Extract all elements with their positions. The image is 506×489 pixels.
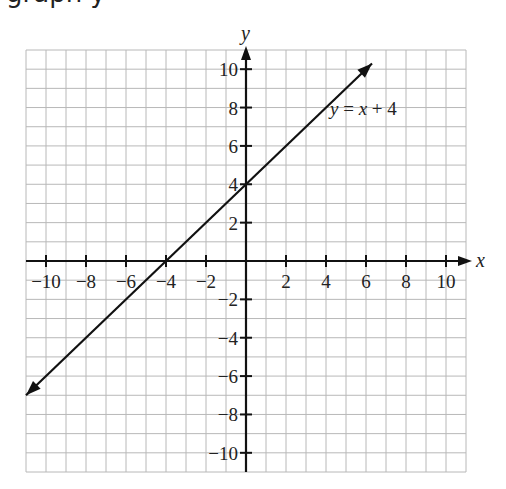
x-tick-label: 6 — [361, 271, 371, 292]
x-tick-label: 4 — [321, 271, 331, 292]
y-tick-label: 10 — [219, 59, 238, 80]
x-tick-label: −2 — [196, 271, 216, 292]
x-tick-label: 8 — [401, 271, 411, 292]
x-tick-label: 10 — [437, 271, 456, 292]
y-tick-label: −2 — [218, 289, 238, 310]
x-tick-label: −6 — [116, 271, 136, 292]
line-equation-label: y = x + 4 — [328, 98, 397, 119]
y-tick-label: 2 — [229, 213, 239, 234]
x-tick-label: −4 — [156, 271, 177, 292]
y-tick-label: −4 — [218, 328, 239, 349]
x-tick-label: −10 — [31, 271, 61, 292]
coordinate-plane: −10−8−6−4−2246810108642−2−4−6−8−10 x y y… — [0, 0, 506, 489]
y-tick-label: 8 — [229, 98, 239, 119]
x-tick-label: −8 — [76, 271, 96, 292]
y-tick-label: −10 — [208, 443, 238, 464]
y-tick-label: −8 — [218, 404, 238, 425]
y-tick-label: 6 — [229, 136, 239, 157]
line-series — [26, 63, 372, 395]
y-axis-label: y — [239, 22, 250, 45]
x-axis-label: x — [475, 249, 485, 271]
x-tick-label: 2 — [281, 271, 291, 292]
y-tick-label: −6 — [218, 366, 238, 387]
